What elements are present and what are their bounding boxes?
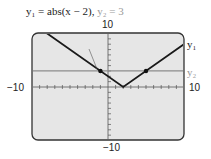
intersection-point-2	[144, 69, 148, 73]
graph-screen	[0, 0, 211, 159]
intersection-point-1	[98, 69, 102, 73]
